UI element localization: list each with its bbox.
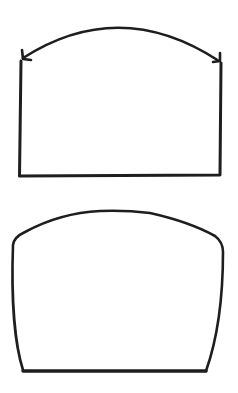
- top-shape: [20, 28, 222, 176]
- rounded-trapezoid-outline: [12, 211, 223, 371]
- curved-arrow-arc: [23, 28, 219, 61]
- diagram-canvas: [0, 0, 238, 393]
- rectangle-outline: [20, 61, 222, 176]
- bottom-shape: [12, 211, 223, 371]
